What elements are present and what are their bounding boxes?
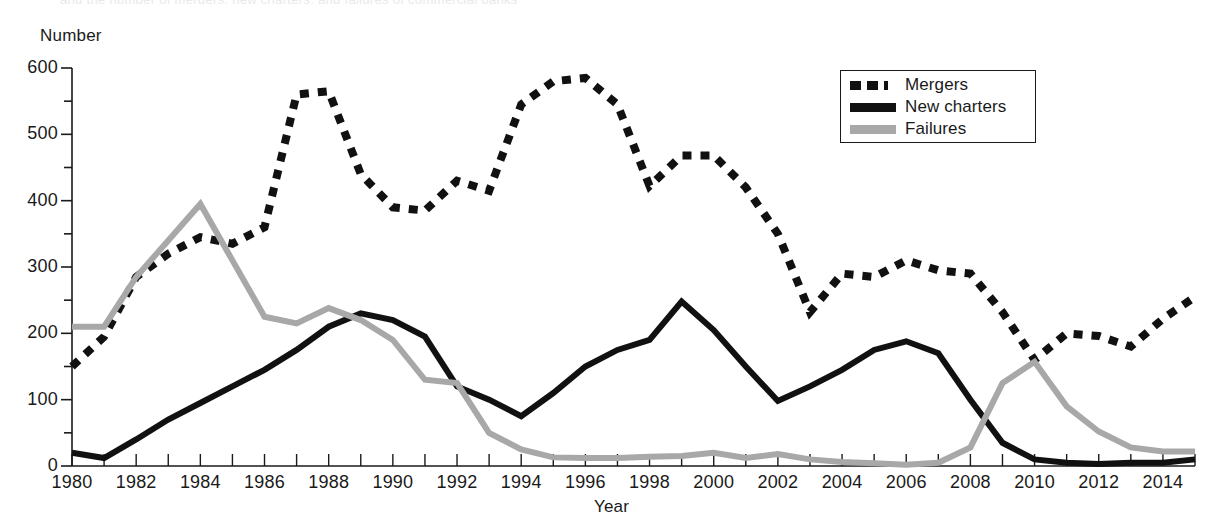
x-tick-label: 2006	[871, 472, 941, 493]
legend-swatch-new-charters	[850, 103, 896, 112]
x-tick-label: 2012	[1064, 472, 1134, 493]
legend-label-mergers: Mergers	[905, 75, 968, 95]
x-tick-label: 1982	[101, 472, 171, 493]
y-tick-label: 500	[10, 123, 58, 144]
bank-activity-line-chart: and the number of mergers, new charters,…	[0, 0, 1223, 530]
legend-item-new-charters[interactable]: New charters	[841, 96, 1035, 118]
series-line-failures	[72, 204, 1195, 465]
x-tick-label: 1990	[358, 472, 428, 493]
legend-label-failures: Failures	[905, 119, 966, 139]
y-tick-label: 300	[10, 256, 58, 277]
x-tick-label: 2004	[807, 472, 877, 493]
y-tick-label: 200	[10, 322, 58, 343]
x-tick-label: 1992	[422, 472, 492, 493]
x-tick-label: 2002	[743, 472, 813, 493]
legend-item-failures[interactable]: Failures	[841, 118, 1035, 140]
legend-swatch-failures	[850, 125, 896, 134]
x-tick-label: 1994	[486, 472, 556, 493]
legend-label-new-charters: New charters	[905, 97, 1006, 117]
x-tick-label: 1984	[165, 472, 235, 493]
x-tick-label: 1996	[550, 472, 620, 493]
x-tick-label: 2010	[1000, 472, 1070, 493]
y-tick-label: 600	[10, 57, 58, 78]
x-tick-label: 1986	[230, 472, 300, 493]
x-tick-label: 1998	[615, 472, 685, 493]
legend-item-mergers[interactable]: Mergers	[841, 74, 1035, 96]
x-tick-label: 2008	[935, 472, 1005, 493]
x-tick-label: 2000	[679, 472, 749, 493]
x-tick-label: 2014	[1128, 472, 1198, 493]
x-tick-label: 1988	[294, 472, 364, 493]
y-tick-label: 100	[10, 389, 58, 410]
series-line-new-charters	[72, 301, 1195, 464]
legend-swatch-mergers	[850, 81, 896, 90]
y-tick-label: 400	[10, 190, 58, 211]
x-tick-label: 1980	[37, 472, 107, 493]
chart-legend: Mergers New charters Failures	[840, 70, 1036, 143]
plot-area	[0, 0, 1223, 530]
x-axis-title: Year	[0, 497, 1223, 517]
